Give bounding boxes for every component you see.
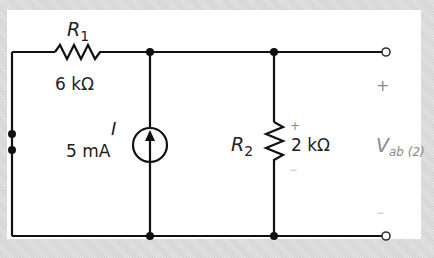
resistor-r1 bbox=[55, 45, 105, 59]
left-terminal-dot bbox=[8, 130, 16, 138]
junction-dot bbox=[146, 48, 154, 56]
current-arrow-head bbox=[145, 130, 155, 141]
junction-dot bbox=[270, 232, 278, 240]
left-terminal-dot bbox=[8, 146, 16, 154]
r2-value: 2 kΩ bbox=[291, 135, 330, 155]
source-value: 5 mA bbox=[66, 141, 111, 161]
r2-symbol: R2 bbox=[231, 133, 253, 159]
output-label: Vab (2) bbox=[376, 134, 425, 159]
r1-value: 6 kΩ bbox=[55, 74, 94, 94]
output-minus: — bbox=[377, 209, 384, 217]
terminal-a bbox=[382, 48, 390, 56]
r2-minus: — bbox=[290, 166, 297, 174]
r1-symbol: R1 bbox=[67, 18, 89, 44]
output-plus: + bbox=[376, 76, 389, 95]
circuit-diagram: R1 6 kΩ I 5 mA R2 2 kΩ + — + Vab (2) — bbox=[0, 0, 434, 258]
r2-plus: + bbox=[290, 119, 300, 133]
junction-dot bbox=[146, 232, 154, 240]
resistor-r2 bbox=[266, 122, 283, 165]
terminal-b bbox=[382, 232, 390, 240]
junction-dot bbox=[270, 48, 278, 56]
source-symbol: I bbox=[111, 118, 116, 139]
